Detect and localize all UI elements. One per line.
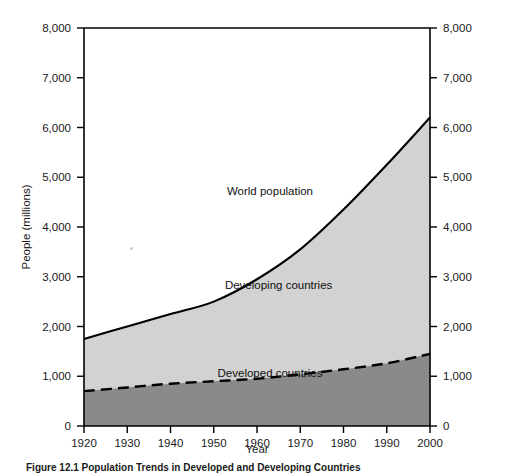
right-tick-label: 3,000 bbox=[443, 271, 472, 283]
left-tick-label: 5,000 bbox=[42, 171, 71, 183]
population-area-chart: 01,0002,0003,0004,0005,0006,0007,0008,00… bbox=[0, 0, 506, 474]
right-tick-label: 7,000 bbox=[443, 72, 472, 84]
population-trends-figure: 01,0002,0003,0004,0005,0006,0007,0008,00… bbox=[0, 0, 506, 474]
figure-caption: Figure 12.1 Population Trends in Develop… bbox=[26, 462, 486, 474]
annotation-developed-countries: Developed countries bbox=[218, 367, 323, 379]
left-tick-label: 6,000 bbox=[42, 122, 71, 134]
left-tick-label: 4,000 bbox=[42, 221, 71, 233]
x-axis-title: Year bbox=[245, 443, 268, 455]
right-tick-label: 8,000 bbox=[443, 22, 472, 34]
right-tick-label: 6,000 bbox=[443, 122, 472, 134]
right-axis-ticks: 01,0002,0003,0004,0005,0006,0007,0008,00… bbox=[430, 22, 472, 432]
y-axis-title: People (millions) bbox=[20, 184, 32, 269]
annotation-world-population: World population bbox=[227, 185, 313, 197]
right-tick-label: 4,000 bbox=[443, 221, 472, 233]
right-tick-label: 2,000 bbox=[443, 321, 472, 333]
scan-speck bbox=[130, 247, 133, 250]
bottom-tick-label: 1990 bbox=[374, 437, 400, 449]
left-tick-label: 8,000 bbox=[42, 22, 71, 34]
bottom-tick-label: 1930 bbox=[114, 437, 140, 449]
bottom-tick-label: 1920 bbox=[71, 437, 97, 449]
bottom-tick-label: 2000 bbox=[417, 437, 443, 449]
annotation-developing-countries: Developing countries bbox=[225, 279, 333, 291]
left-axis-ticks: 01,0002,0003,0004,0005,0006,0007,0008,00… bbox=[42, 22, 84, 432]
bottom-tick-label: 1940 bbox=[158, 437, 184, 449]
left-tick-label: 3,000 bbox=[42, 271, 71, 283]
right-tick-label: 5,000 bbox=[443, 171, 472, 183]
right-tick-label: 0 bbox=[443, 420, 449, 432]
left-tick-label: 0 bbox=[65, 420, 71, 432]
bottom-tick-label: 1950 bbox=[201, 437, 227, 449]
left-tick-label: 7,000 bbox=[42, 72, 71, 84]
bottom-tick-label: 1980 bbox=[331, 437, 357, 449]
left-tick-label: 2,000 bbox=[42, 321, 71, 333]
bottom-tick-label: 1970 bbox=[287, 437, 313, 449]
left-tick-label: 1,000 bbox=[42, 370, 71, 382]
right-tick-label: 1,000 bbox=[443, 370, 472, 382]
